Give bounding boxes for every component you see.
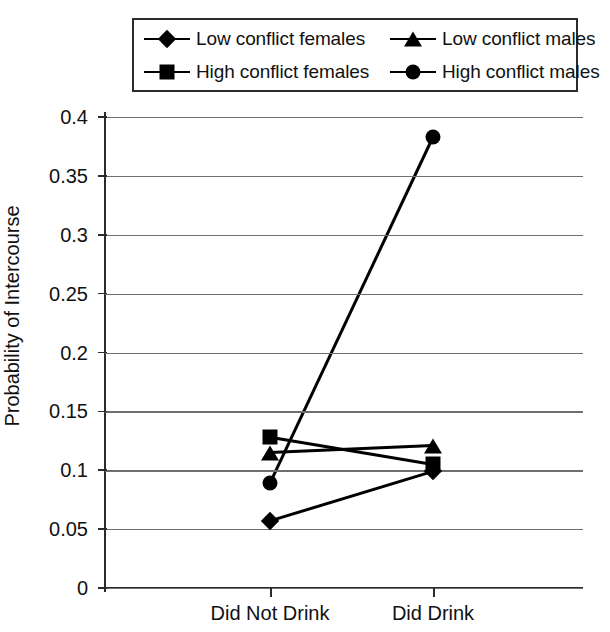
gridline: [105, 294, 583, 295]
circle-marker-icon: [390, 62, 436, 82]
y-axis-tick: [98, 411, 107, 413]
y-axis-tick-labels: 00.050.10.150.20.250.30.350.4: [0, 0, 100, 632]
series-line: [270, 471, 433, 521]
x-axis-tick: [270, 588, 272, 597]
y-axis-tick-label: 0.1: [60, 459, 88, 482]
data-point-square: [426, 457, 441, 472]
x-axis-tick: [433, 588, 435, 597]
y-axis-tick-label: 0.3: [60, 223, 88, 246]
gridline: [105, 470, 583, 471]
diamond-marker-icon: [144, 29, 190, 49]
data-point-triangle: [261, 445, 279, 460]
y-axis-tick: [98, 116, 107, 118]
gridline: [105, 176, 583, 177]
gridline: [105, 117, 583, 118]
x-axis-tick-label: Did Drink: [392, 602, 474, 625]
y-axis-tick-label: 0.05: [49, 518, 88, 541]
y-axis-tick: [98, 175, 107, 177]
y-axis-tick-label: 0.25: [49, 282, 88, 305]
gridline: [105, 529, 583, 530]
triangle-marker-icon: [390, 29, 436, 49]
data-point-circle: [426, 130, 441, 145]
y-axis-tick: [98, 587, 107, 589]
legend-label: High conflict females: [196, 61, 369, 83]
y-axis-tick-label: 0.4: [60, 106, 88, 129]
gridline: [105, 353, 583, 354]
legend-item-high-conflict-males: High conflict males: [390, 61, 590, 83]
y-axis-tick-label: 0: [77, 577, 88, 600]
legend-item-low-conflict-males: Low conflict males: [390, 28, 590, 50]
gridline: [105, 411, 583, 412]
legend-label: Low conflict males: [442, 28, 595, 50]
y-axis-tick-label: 0.15: [49, 400, 88, 423]
legend-item-low-conflict-females: Low conflict females: [144, 28, 390, 50]
y-axis-tick: [98, 528, 107, 530]
legend-label: High conflict males: [442, 61, 600, 83]
y-axis-tick: [98, 293, 107, 295]
legend-label: Low conflict females: [196, 28, 365, 50]
series-line: [270, 137, 433, 483]
chart-legend: Low conflict females Low conflict males …: [132, 18, 578, 92]
legend-item-high-conflict-females: High conflict females: [144, 61, 390, 83]
y-axis-tick: [98, 234, 107, 236]
square-marker-icon: [144, 62, 190, 82]
y-axis-tick: [98, 469, 107, 471]
y-axis-tick-label: 0.35: [49, 164, 88, 187]
y-axis-tick-label: 0.2: [60, 341, 88, 364]
x-axis-tick-label: Did Not Drink: [211, 602, 330, 625]
gridline: [105, 588, 583, 589]
data-point-circle: [263, 476, 278, 491]
plot-area: [105, 117, 583, 588]
y-axis-tick: [98, 352, 107, 354]
data-point-triangle: [424, 438, 442, 453]
gridline: [105, 235, 583, 236]
chart-figure: Low conflict females Low conflict males …: [0, 0, 610, 632]
data-point-square: [263, 430, 278, 445]
